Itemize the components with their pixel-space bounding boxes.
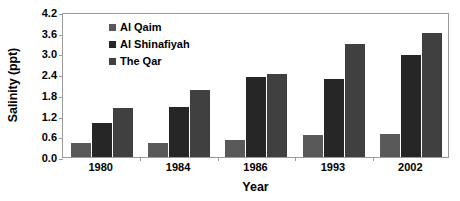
bar	[148, 143, 168, 158]
y-tick-mark	[59, 55, 63, 56]
chart-legend: Al QaimAl ShinafiyahThe Qar	[109, 19, 190, 70]
y-tick-mark	[59, 138, 63, 139]
y-tick-label: 0.6	[42, 132, 57, 143]
x-axis-title: Year	[62, 180, 449, 194]
bar	[303, 135, 323, 157]
x-tick-label: 1984	[166, 162, 190, 173]
legend-swatch-icon	[109, 24, 116, 31]
x-tick-label: 1980	[88, 162, 112, 173]
y-tick-mark	[59, 76, 63, 77]
bar	[225, 140, 245, 157]
y-tick-mark	[59, 118, 63, 119]
bar	[71, 143, 91, 158]
legend-label: Al Qaim	[120, 22, 162, 33]
bar	[422, 33, 442, 157]
x-tick-mark	[295, 157, 296, 161]
bar	[380, 134, 400, 157]
bar	[169, 107, 189, 157]
bar	[267, 74, 287, 157]
legend-item: Al Shinafiyah	[109, 36, 190, 53]
bar	[401, 55, 421, 157]
bar-chart-figure: Salinity (ppt) 0.00.61.21.82.43.03.64.2 …	[0, 0, 460, 201]
bar-group	[295, 14, 372, 157]
y-axis-tick-labels: 0.00.61.21.82.43.03.64.2	[26, 13, 60, 158]
y-tick-label: 2.4	[42, 70, 57, 81]
x-tick-mark	[140, 157, 141, 161]
x-tick-label: 1993	[321, 162, 345, 173]
legend-item: Al Qaim	[109, 19, 190, 36]
y-tick-mark	[59, 97, 63, 98]
legend-label: Al Shinafiyah	[120, 39, 190, 50]
y-tick-mark	[59, 159, 63, 160]
bar	[113, 108, 133, 157]
x-tick-mark	[373, 157, 374, 161]
bar	[92, 123, 112, 157]
y-tick-label: 1.8	[42, 90, 57, 101]
x-tick-label: 1986	[243, 162, 267, 173]
legend-swatch-icon	[109, 41, 116, 48]
y-tick-mark	[59, 14, 63, 15]
y-tick-mark	[59, 35, 63, 36]
legend-swatch-icon	[109, 58, 116, 65]
y-tick-label: 1.2	[42, 111, 57, 122]
legend-label: The Qar	[120, 56, 162, 67]
y-tick-label: 3.6	[42, 28, 57, 39]
y-tick-label: 4.2	[42, 8, 57, 19]
bar	[324, 79, 344, 157]
y-axis-title: Salinity (ppt)	[0, 0, 26, 170]
bar-group	[373, 14, 450, 157]
y-tick-label: 0.0	[42, 153, 57, 164]
bar	[246, 77, 266, 157]
y-axis-title-label: Salinity (ppt)	[6, 48, 20, 122]
bar	[190, 90, 210, 157]
legend-item: The Qar	[109, 53, 190, 70]
x-tick-label: 2002	[398, 162, 422, 173]
x-axis-tick-labels: 19801984198619932002	[62, 162, 449, 178]
plot-area: Al QaimAl ShinafiyahThe Qar	[62, 13, 449, 158]
x-tick-mark	[218, 157, 219, 161]
bar-group	[218, 14, 295, 157]
bar	[345, 44, 365, 157]
y-tick-label: 3.0	[42, 49, 57, 60]
